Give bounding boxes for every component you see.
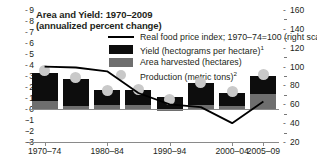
right-axis-tick-mark: -	[283, 119, 286, 128]
right-axis-minor-tick	[284, 57, 287, 58]
right-axis-tick-mark: -	[283, 138, 286, 147]
right-axis-tick-label: 40	[290, 119, 317, 128]
right-axis-tick-label: 120	[290, 44, 317, 53]
left-axis-tick-mark: -	[25, 28, 28, 37]
right-axis-tick-mark: -	[283, 100, 286, 109]
left-axis-tick-mark: -	[25, 105, 28, 114]
right-axis-minor-tick	[284, 19, 287, 20]
right-axis-tick-mark: -	[283, 6, 286, 15]
right-axis-tick-label: 20	[290, 138, 317, 147]
left-axis-tick-mark: -	[25, 94, 28, 103]
right-axis-tick-label: 140	[290, 25, 317, 34]
right-axis-minor-tick	[284, 114, 287, 115]
right-axis-tick-label: 100	[290, 63, 317, 72]
x-axis-tick-label: 1970–74	[22, 147, 68, 156]
right-axis-tick-label: 160	[290, 6, 317, 15]
left-axis-tick-mark: -	[25, 83, 28, 92]
left-axis-tick-mark: -	[25, 39, 28, 48]
right-axis-tick-mark: -	[283, 81, 286, 90]
axis-baseline	[29, 142, 279, 143]
right-axis-tick-mark: -	[283, 25, 286, 34]
left-axis-tick-mark: -	[25, 116, 28, 125]
right-axis-tick-mark: -	[283, 44, 286, 53]
x-axis-tick-label: 1980–84	[84, 147, 130, 156]
left-axis-tick-mark: -	[25, 72, 28, 81]
left-axis-tick-mark: -	[25, 127, 28, 136]
price-index-line	[29, 10, 279, 142]
right-axis-minor-tick	[284, 133, 287, 134]
left-axis-tick-mark: -	[25, 61, 28, 70]
x-axis-tick-label: 1990–94	[147, 147, 193, 156]
right-axis-minor-tick	[284, 76, 287, 77]
right-axis-minor-tick	[284, 95, 287, 96]
right-axis-tick-label: 60	[290, 100, 317, 109]
chart-container: Area and Yield: 1970–2009 (annualized pe…	[0, 0, 317, 166]
right-axis-minor-tick	[284, 38, 287, 39]
left-axis-tick-mark: -	[25, 17, 28, 26]
left-axis-tick-mark: -	[25, 6, 28, 15]
x-axis-tick-label: 2005–09	[240, 147, 286, 156]
right-axis-tick-mark: -	[283, 63, 286, 72]
right-axis-tick-label: 80	[290, 81, 317, 90]
plot-area	[29, 10, 279, 142]
left-axis-tick-mark: -	[25, 50, 28, 59]
